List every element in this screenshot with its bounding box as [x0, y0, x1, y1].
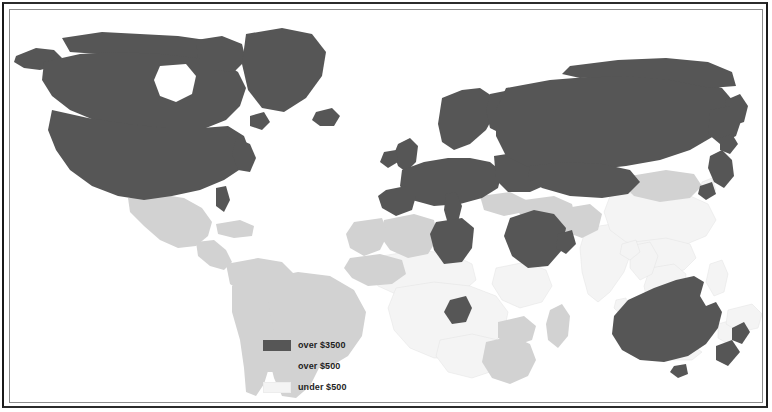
legend-row-low[interactable]: under $500	[263, 377, 393, 397]
legend-row-high[interactable]: over $3500	[263, 335, 393, 355]
legend-swatch-over-500	[263, 361, 291, 372]
legend-label-under-500: under $500	[298, 382, 347, 392]
legend-row-mid[interactable]: over $500	[263, 356, 393, 376]
map-legend: over $3500 over $500 under $500	[263, 335, 393, 398]
legend-label-over-3500: over $3500	[298, 340, 346, 350]
legend-swatch-over-3500	[263, 340, 291, 351]
legend-swatch-under-500	[263, 382, 291, 393]
figure-root: over $3500 over $500 under $500	[0, 0, 772, 412]
legend-label-over-500: over $500	[298, 361, 340, 371]
map-plate-frame: over $3500 over $500 under $500	[9, 9, 763, 403]
